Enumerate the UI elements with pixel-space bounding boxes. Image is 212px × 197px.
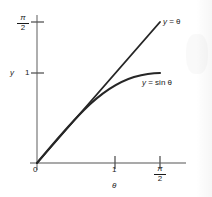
- series-label-y-equals-theta: y = θ: [163, 17, 181, 26]
- x-tick-pi-numerator: π: [154, 165, 166, 173]
- series-label-sin-rest: = sin θ: [146, 78, 172, 87]
- origin-label: 0: [33, 166, 37, 174]
- y-tick-pi-denominator: 2: [17, 24, 29, 32]
- plot-area: [0, 0, 212, 197]
- x-tick-label-1: 1: [112, 166, 116, 174]
- x-tick-label-pi-over-2: π 2: [154, 165, 166, 183]
- y-tick-pi-numerator: π: [17, 14, 29, 22]
- y-tick-label-pi-over-2: π 2: [17, 14, 29, 32]
- x-axis-label: θ: [112, 182, 116, 190]
- figure-container: y 1 π 2 0 1 π 2 θ y = θ y = sin θ: [0, 0, 212, 197]
- series-label-theta-rest: = θ: [167, 17, 181, 26]
- series-label-y-equals-sin-theta: y = sin θ: [142, 78, 172, 87]
- y-axis-label: y: [10, 69, 14, 77]
- x-tick-pi-denominator: 2: [154, 175, 166, 183]
- y-tick-label-1: 1: [25, 69, 29, 77]
